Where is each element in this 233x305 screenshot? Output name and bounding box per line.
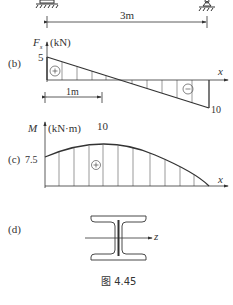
dimension-1m-label: 1m <box>66 86 79 97</box>
moment-peak-value: 10 <box>97 121 108 132</box>
panel-label-c: (c) <box>8 154 20 165</box>
left-support-icon <box>36 0 58 8</box>
section-z-axis-label: z <box>154 231 158 242</box>
panel-label-b: (b) <box>8 58 21 69</box>
moment-x-axis-label: x <box>218 174 223 185</box>
shear-diagram <box>47 42 228 108</box>
moment-left-value: 7.5 <box>25 154 38 165</box>
shear-x-axis-label: x <box>218 66 223 77</box>
moment-axis-label: M <box>28 123 37 134</box>
shear-right-value: 10 <box>211 104 221 115</box>
figure-caption: 图 4.45 <box>101 276 136 287</box>
i-beam-section-icon <box>85 216 152 260</box>
span-label: 3m <box>120 10 134 21</box>
panel-label-d: (d) <box>8 224 21 235</box>
shear-unit-label: (kN) <box>50 37 71 48</box>
shear-left-value: 5 <box>38 52 44 63</box>
moment-unit-label: (kN·m) <box>48 123 81 134</box>
right-support-icon <box>199 0 215 11</box>
